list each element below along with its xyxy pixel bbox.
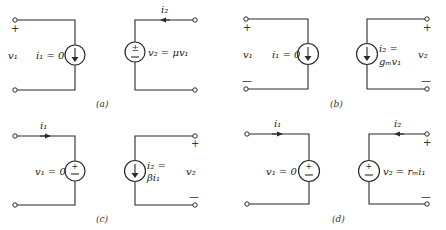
svg-text:+: + [306, 162, 313, 171]
current-source-icon [65, 45, 85, 65]
v2-rm-i1-label: v₂ = rₘi₁ [383, 166, 426, 177]
plus-sign: + [191, 138, 199, 149]
panel-c: + i₁ v₁ = 0 i₂ = βi₁ + — v₂ (c) [13, 120, 200, 224]
plus-sign: + [11, 23, 19, 34]
v2-label: v₂ [186, 166, 196, 177]
input-port-d: + i₁ v₁ = 0 [245, 118, 320, 206]
caption-c: (c) [96, 214, 109, 224]
minus-sign: — [242, 75, 252, 86]
input-port-b: + — v₁ i₁ = 0 [242, 17, 319, 91]
v2-mu-v1-label: v₂ = μv₁ [148, 47, 189, 58]
terminal-icon [425, 132, 429, 136]
svg-text:+: + [72, 162, 79, 171]
controlled-sources-diagram: + v₁ i₁ = 0 ± i₂ v₂ = μv₁ (a) [0, 0, 446, 230]
panel-a: + v₁ i₁ = 0 ± i₂ v₂ = μv₁ (a) [8, 4, 197, 109]
v1-label: v₁ [243, 49, 253, 60]
i1-zero-label: i₁ = 0 [36, 50, 65, 61]
vccs-source-icon [357, 44, 378, 65]
minus-sign: — [421, 191, 431, 202]
plus-sign: + [423, 22, 431, 33]
terminal-icon [425, 202, 429, 206]
v1-zero-label: v₁ = 0 [266, 166, 297, 177]
output-port-c: i₂ = βi₁ + — v₂ [125, 134, 200, 207]
panel-b: + — v₁ i₁ = 0 i₂ = gₘv₁ + — v₂ (b) [242, 17, 431, 109]
beta-i1-label: βi₁ [146, 172, 160, 183]
minus-sign: — [421, 75, 431, 86]
input-port-a: + v₁ i₁ = 0 [8, 18, 85, 92]
i2-label: i₂ = [379, 43, 398, 54]
voltage-source-icon: ± [125, 42, 145, 62]
terminal-icon [425, 87, 429, 91]
terminal-icon [425, 17, 429, 21]
i2-label: i₂ = [147, 160, 166, 171]
voltage-source-icon: + [65, 161, 85, 181]
panel-d: + i₁ v₁ = 0 + i₂ v₂ = rₘi₁ + — (d) [245, 118, 432, 224]
cccs-source-icon [125, 161, 146, 182]
output-port-d: + i₂ v₂ = rₘi₁ + — [359, 118, 432, 206]
terminal-icon [13, 88, 17, 92]
svg-text:+: + [366, 162, 373, 171]
plus-sign: + [243, 22, 251, 33]
terminal-icon [13, 18, 17, 22]
caption-b: (b) [330, 99, 343, 109]
i1-label: i₁ [274, 118, 281, 129]
i2-label: i₂ [161, 4, 168, 15]
output-port-a: ± i₂ v₂ = μv₁ [125, 4, 197, 92]
gm-v1-label: gₘv₁ [379, 56, 401, 67]
terminal-icon [193, 203, 197, 207]
i1-zero-label: i₁ = 0 [272, 49, 301, 60]
v2-label: v₂ [418, 49, 428, 60]
caption-a: (a) [96, 99, 109, 109]
terminal-icon [244, 87, 248, 91]
output-port-b: i₂ = gₘv₁ + — v₂ [357, 17, 432, 91]
terminal-icon [193, 18, 197, 22]
i1-label: i₁ [40, 120, 47, 131]
terminal-icon [13, 134, 17, 138]
terminal-icon [245, 202, 249, 206]
svg-text:±: ± [132, 43, 140, 53]
terminal-icon [193, 88, 197, 92]
current-source-icon [298, 44, 319, 65]
plus-sign: + [423, 137, 431, 148]
minus-sign: — [189, 191, 199, 202]
caption-d: (d) [332, 214, 345, 224]
v1-zero-label: v₁ = 0 [35, 166, 66, 177]
terminal-icon [13, 203, 17, 207]
v1-label: v₁ [8, 50, 18, 61]
voltage-source-icon: + [299, 161, 320, 182]
terminal-icon [245, 132, 249, 136]
i2-label: i₂ [394, 118, 401, 129]
terminal-icon [244, 17, 248, 21]
input-port-c: + i₁ v₁ = 0 [13, 120, 85, 207]
ccvs-source-icon: + [359, 161, 380, 182]
